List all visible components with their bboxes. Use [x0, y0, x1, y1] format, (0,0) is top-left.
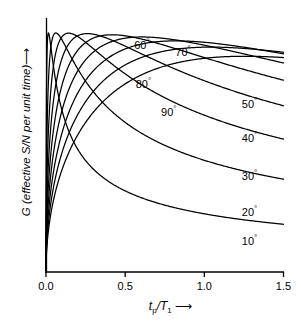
- curve-label-value: 50: [242, 98, 254, 110]
- x-axis-ticks: [46, 272, 284, 277]
- degree-symbol-icon: °: [254, 130, 257, 139]
- x-axis-label: tp/T1 ⟶: [110, 296, 230, 318]
- curve-label-60deg: 60°: [134, 37, 149, 51]
- x-tick-label: 0.5: [118, 280, 133, 292]
- x-tick-label: 1.0: [197, 280, 212, 292]
- curve-label-70deg: 70°: [175, 44, 190, 58]
- x-axis-label-denom-sub: 1: [167, 306, 171, 315]
- curve-label-value: 20: [242, 206, 254, 218]
- degree-symbol-icon: °: [148, 76, 151, 85]
- degree-symbol-icon: °: [254, 96, 257, 105]
- curve-label-value: 90: [161, 105, 173, 117]
- plot-canvas: [0, 0, 301, 328]
- curve-label-value: 30: [242, 170, 254, 182]
- curve-label-20deg: 20°: [242, 204, 257, 218]
- curve-label-value: 70: [175, 46, 187, 58]
- curve-label-80deg: 80°: [136, 76, 151, 90]
- degree-symbol-icon: °: [146, 37, 149, 46]
- curve-label-value: 80: [136, 78, 148, 90]
- curve-label-90deg: 90°: [161, 104, 176, 118]
- x-axis-label-denom: /T: [157, 299, 168, 313]
- degree-symbol-icon: °: [188, 44, 191, 53]
- x-axis-label-text: tp/T1 ⟶: [149, 299, 191, 315]
- degree-symbol-icon: °: [254, 204, 257, 213]
- curve-label-value: 40: [242, 132, 254, 144]
- curve-label-50deg: 50°: [242, 96, 257, 110]
- x-tick-label: 1.5: [276, 280, 291, 292]
- degree-symbol-icon: °: [254, 233, 257, 242]
- x-axis-arrow-icon: ⟶: [175, 299, 191, 313]
- curve-label-value: 10: [242, 234, 254, 246]
- curve-label-40deg: 40°: [242, 130, 257, 144]
- curve-label-10deg: 10°: [242, 233, 257, 247]
- curve-label-value: 60: [134, 38, 146, 50]
- ernst-angle-sensitivity-figure: G (effective S/N per unit time)⟶ tp/T1 ⟶…: [0, 0, 301, 328]
- degree-symbol-icon: °: [254, 168, 257, 177]
- curve-label-30deg: 30°: [242, 168, 257, 182]
- x-tick-label: 0.0: [38, 280, 53, 292]
- degree-symbol-icon: °: [173, 104, 176, 113]
